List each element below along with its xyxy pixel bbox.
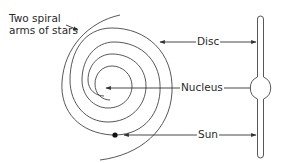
spiral-arms-label-line1: Two spiral (9, 12, 78, 24)
spiral-arms-label-line2: arms of stars (9, 24, 78, 36)
spiral-arms-label: Two spiral arms of stars (9, 12, 78, 36)
sun-label: Sun (197, 129, 219, 140)
side-view-outline (250, 16, 270, 158)
sun-dot (112, 132, 117, 137)
side-view-galaxy (250, 16, 270, 158)
nucleus-label: Nucleus (180, 82, 224, 93)
spiral-arms (62, 15, 172, 160)
galaxy-diagram: Two spiral arms of stars Disc Nucleus Su… (0, 0, 283, 163)
disc-label: Disc (196, 36, 220, 47)
